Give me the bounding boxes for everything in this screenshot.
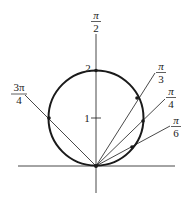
label-pi-over-6: π 6 — [171, 114, 181, 139]
tick-label-1: 1 — [84, 112, 90, 124]
svg-text:6: 6 — [173, 127, 179, 139]
svg-text:4: 4 — [168, 98, 174, 110]
label-pi-over-3: π 3 — [156, 60, 166, 85]
polar-diagram: π 2 2 1 3π 4 π 3 π 4 π 6 — [0, 0, 189, 204]
ray-pi-over-3 — [96, 73, 155, 166]
svg-text:π: π — [168, 85, 174, 97]
label-pi-over-2: π 2 — [91, 9, 101, 34]
point-top — [94, 69, 98, 73]
svg-text:2: 2 — [93, 22, 99, 34]
svg-text:π: π — [158, 60, 164, 72]
label-3pi-over-4: 3π 4 — [11, 81, 27, 106]
svg-text:3: 3 — [158, 73, 164, 85]
point-pi-over-6 — [130, 145, 134, 149]
svg-text:π: π — [173, 114, 179, 126]
tick-label-2: 2 — [85, 62, 91, 74]
svg-text:π: π — [93, 9, 99, 21]
point-origin — [94, 164, 98, 168]
point-pi-over-3 — [135, 96, 139, 100]
ray-3pi-over-4 — [25, 95, 96, 166]
point-pi-over-4 — [141, 119, 145, 123]
svg-text:4: 4 — [16, 94, 22, 106]
label-pi-over-4: π 4 — [166, 85, 176, 110]
svg-text:3π: 3π — [13, 81, 25, 93]
point-3pi-over-4 — [47, 116, 51, 120]
ray-pi-over-4 — [96, 99, 165, 166]
